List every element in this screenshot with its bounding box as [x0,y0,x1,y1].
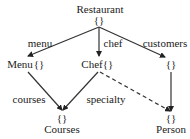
node-person-label: Person [156,123,186,135]
edge-label-specialty: specialty [86,93,125,105]
edge-label-chef: chef [104,37,123,49]
node-restaurant-braces: {} [94,14,105,26]
edge-label-menu: menu [28,37,52,49]
node-chef-braces: {} [103,58,114,70]
edge-specialty [100,72,170,111]
edge-label-customers: customers [143,37,188,49]
node-menu-label: Menu [7,58,33,70]
edge-label-courses: courses [13,93,46,105]
node-courses-label: Courses [44,123,79,135]
node-chef-label: Chef [81,58,102,70]
node-menu-braces: {} [34,58,45,70]
node-customers-braces: {} [166,58,177,70]
